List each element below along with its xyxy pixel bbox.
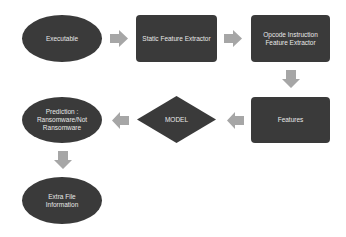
static-feature-extractor-node: Static Feature Extractor [136,15,217,62]
extra-file-info-node: Extra File Information [22,177,102,224]
opcode-feature-extractor-node: Opcode Instruction Feature Extractor [251,15,330,62]
arrow-down-icon [282,70,300,88]
prediction-label: Prediction : Ransomware/Not Ransomware [32,108,92,132]
executable-node: Executable [22,15,102,62]
prediction-node: Prediction : Ransomware/Not Ransomware [22,97,102,143]
static-extractor-label: Static Feature Extractor [142,35,210,43]
extra-info-label: Extra File Information [38,193,86,209]
arrow-left-icon [227,112,244,129]
model-label: MODEL [165,116,188,124]
model-node: MODEL [137,96,216,143]
arrow-down-icon [54,151,72,169]
executable-label: Executable [46,35,78,43]
opcode-extractor-label: Opcode Instruction Feature Extractor [253,31,328,47]
features-node: Features [251,97,330,143]
arrow-right-icon [110,30,128,47]
arrow-right-icon [224,30,242,47]
arrow-left-icon [112,112,129,129]
features-label: Features [278,116,304,124]
